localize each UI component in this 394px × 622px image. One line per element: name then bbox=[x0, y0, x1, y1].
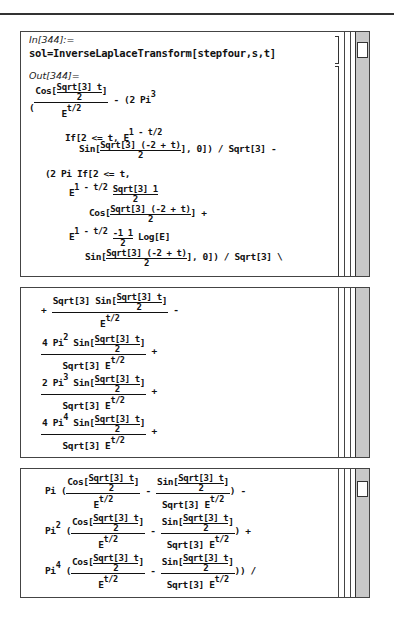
scroll-thumb[interactable] bbox=[357, 481, 368, 497]
notebook-window-1: In[344]:= sol=InverseLaplaceTransform[st… bbox=[20, 31, 370, 277]
output-cell-bracket[interactable] bbox=[335, 66, 339, 277]
term-2: 4 Pi2 Sin[Sqrt[3] t2]Sqrt[3] Et/2 + bbox=[41, 332, 157, 371]
group-bracket[interactable] bbox=[344, 32, 345, 276]
input-cell-bracket[interactable] bbox=[335, 36, 339, 64]
term-4: 4 Pi4 Sin[Sqrt[3] t2]Sqrt[3] Et/2 + bbox=[41, 412, 157, 451]
group-bracket-outer[interactable] bbox=[350, 288, 351, 457]
cell-area: Pi (Cos[Sqrt[3] t2]Et/2 - Sin[Sqrt[3] t2… bbox=[29, 469, 329, 597]
window-top-border bbox=[0, 13, 394, 15]
group-bracket[interactable] bbox=[344, 288, 345, 457]
output-label: Out[344]= bbox=[29, 70, 80, 81]
term-3: 2 Pi3 Sin[Sqrt[3] t2]Sqrt[3] Et/2 + bbox=[41, 372, 157, 411]
output-line-8: Sin[Sqrt[3] (-2 + t)2], 0]) / Sqrt[3] \ bbox=[85, 248, 282, 268]
vertical-scrollbar[interactable] bbox=[355, 32, 369, 276]
cell-area: + Sqrt[3] Sin[Sqrt[3] t2]Et/2 - 4 Pi2 Si… bbox=[29, 288, 329, 457]
output-line-7: E1 - t/2 -1 12 Log[E] bbox=[69, 226, 170, 248]
scroll-thumb[interactable] bbox=[357, 42, 368, 58]
cell-bracket[interactable] bbox=[338, 288, 339, 457]
group-bracket-outer[interactable] bbox=[350, 469, 351, 597]
cell-area: In[344]:= sol=InverseLaplaceTransform[st… bbox=[29, 32, 329, 276]
output-line-5: E1 - t/2 Sqrt[3] 12 bbox=[69, 182, 158, 204]
output-line-3: Sin[Sqrt[3] (-2 + t)2], 0]) / Sqrt[3] - bbox=[79, 140, 276, 160]
group-bracket[interactable] bbox=[344, 469, 345, 597]
output-line-1: (Cos[Sqrt[3] t2]Et/2 - (2 Pi3 bbox=[29, 82, 155, 119]
notebook-window-3: Pi (Cos[Sqrt[3] t2]Et/2 - Sin[Sqrt[3] t2… bbox=[20, 468, 370, 598]
output-line-6: Cos[Sqrt[3] (-2 + t)2] + bbox=[89, 204, 207, 224]
cell-bracket[interactable] bbox=[338, 469, 339, 597]
pi-term-1: Pi (Cos[Sqrt[3] t2]Et/2 - Sin[Sqrt[3] t2… bbox=[45, 473, 246, 510]
notebook-window-2: + Sqrt[3] Sin[Sqrt[3] t2]Et/2 - 4 Pi2 Si… bbox=[20, 287, 370, 458]
vertical-scrollbar[interactable] bbox=[355, 469, 369, 597]
vertical-scrollbar[interactable] bbox=[355, 288, 369, 457]
pi-term-3: Pi4 (Cos[Sqrt[3] t2]Et/2 - Sin[Sqrt[3] t… bbox=[45, 553, 256, 590]
input-label: In[344]:= bbox=[29, 34, 75, 45]
input-cell-code[interactable]: sol=InverseLaplaceTransform[stepfour,s,t… bbox=[29, 47, 276, 59]
term-1: + Sqrt[3] Sin[Sqrt[3] t2]Et/2 - bbox=[41, 292, 179, 329]
group-bracket-outer[interactable] bbox=[350, 32, 351, 276]
output-line-4: (2 Pi If[2 <= t, bbox=[45, 168, 130, 179]
pi-term-2: Pi2 (Cos[Sqrt[3] t2]Et/2 - Sin[Sqrt[3] t… bbox=[45, 513, 251, 550]
